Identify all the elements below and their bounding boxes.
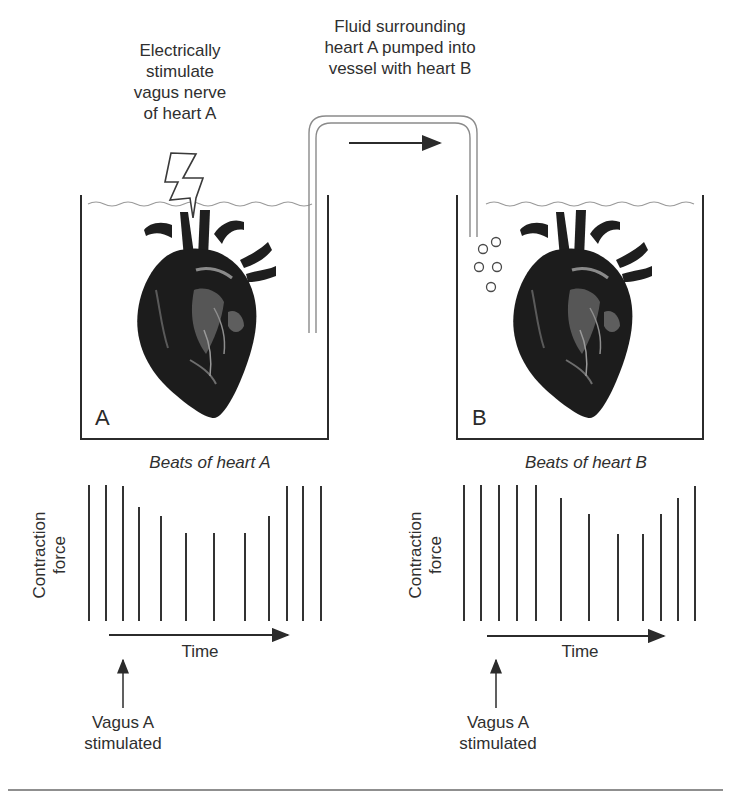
chart-b-annotation: Vagus A stimulated [438,712,558,754]
ylabel-line: Contraction [406,495,426,615]
annotation-line: Vagus A [63,712,183,733]
ylabel-line: force [50,495,70,615]
annotation-line: stimulated [438,733,558,754]
heart-a-illustration [137,210,276,418]
transfer-tube [309,116,477,333]
chart-a-title: Beats of heart A [120,452,300,473]
chart-a-xlabel: Time [160,641,240,662]
chart-b-bars [464,485,695,621]
chart-b-xlabel: Time [540,641,620,662]
ylabel-line: Contraction [30,495,50,615]
fluid-bubbles-icon [475,238,502,292]
lightning-bolt-icon [165,153,203,218]
experiment-diagram [0,0,731,801]
water-surface-b [486,202,694,206]
chart-b-ylabel: Contraction force [406,495,446,615]
ylabel-line: force [426,495,446,615]
water-surface-a [88,202,312,206]
heart-b-illustration [513,210,652,418]
annotation-line: Vagus A [438,712,558,733]
chart-a-bars [89,485,321,621]
chart-a-annotation: Vagus A stimulated [63,712,183,754]
chart-a-ylabel: Contraction force [30,495,70,615]
vessel-a-letter: A [95,405,110,431]
vessel-b-letter: B [472,405,487,431]
chart-b-title: Beats of heart B [496,452,676,473]
annotation-line: stimulated [63,733,183,754]
